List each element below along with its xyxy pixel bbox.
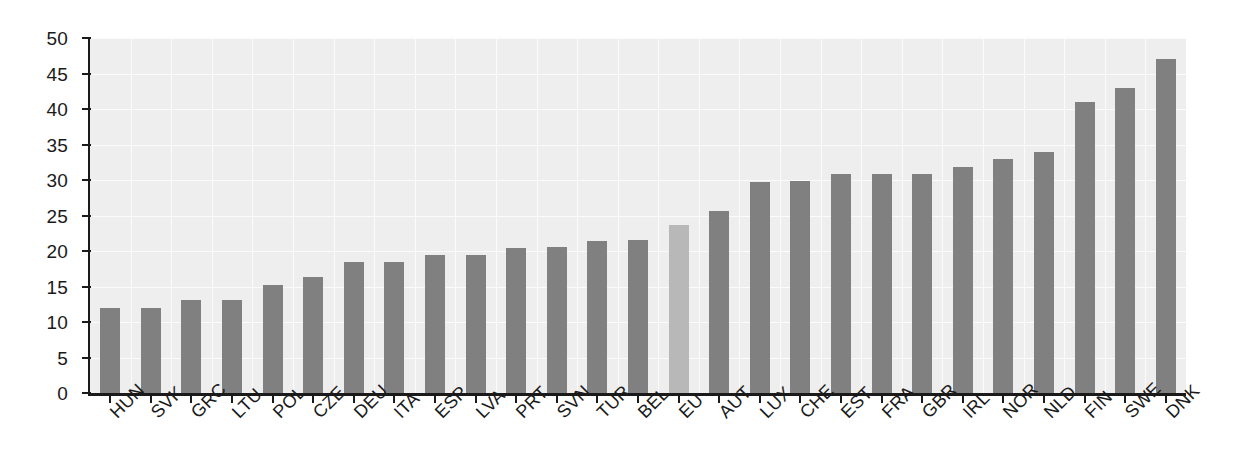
x-axis-label-prt: PRT bbox=[512, 382, 553, 423]
x-tick-mark bbox=[272, 396, 274, 403]
x-tick-mark bbox=[231, 396, 233, 403]
x-axis-label-esp: ESP bbox=[431, 382, 472, 423]
x-axis-label-nor: NOR bbox=[999, 379, 1043, 423]
y-tick-mark bbox=[82, 37, 91, 39]
x-tick-mark bbox=[109, 396, 111, 403]
y-tick-mark bbox=[82, 108, 91, 110]
x-tick-mark bbox=[353, 396, 355, 403]
x-tick-mark bbox=[556, 396, 558, 403]
x-tick-mark bbox=[475, 396, 477, 403]
x-tick-mark bbox=[678, 396, 680, 403]
x-axis-label-dnk: DNK bbox=[1162, 380, 1204, 422]
x-axis-label-irl: IRL bbox=[959, 388, 994, 423]
bar-chart: 05101520253035404550 HUNSVKGRCLTUPOLCZED… bbox=[0, 0, 1238, 466]
x-tick-mark bbox=[881, 396, 883, 403]
x-tick-mark bbox=[1084, 396, 1086, 403]
x-tick-mark bbox=[515, 396, 517, 403]
x-axis-label-deu: DEU bbox=[350, 380, 392, 422]
y-tick-mark bbox=[82, 144, 91, 146]
x-axis-label-swe: SWE bbox=[1121, 378, 1165, 422]
x-axis-label-fin: FIN bbox=[1081, 387, 1117, 423]
x-axis-label-svk: SVK bbox=[147, 382, 188, 423]
x-tick-mark bbox=[799, 396, 801, 403]
x-tick-mark bbox=[312, 396, 314, 403]
x-axis-label-gbr: GBR bbox=[918, 380, 961, 423]
x-axis-label-aut: AUT bbox=[715, 382, 756, 423]
x-axis-label-nld: NLD bbox=[1040, 382, 1081, 423]
y-tick-mark bbox=[82, 286, 91, 288]
y-tick-mark bbox=[82, 179, 91, 181]
x-tick-mark bbox=[393, 396, 395, 403]
x-axis-labels: HUNSVKGRCLTUPOLCZEDEUITAESPLVAPRTSVNTURB… bbox=[0, 0, 1238, 466]
x-tick-mark bbox=[1124, 396, 1126, 403]
x-tick-mark bbox=[718, 396, 720, 403]
x-tick-mark bbox=[637, 396, 639, 403]
x-axis-label-grc: GRC bbox=[187, 379, 231, 423]
x-tick-mark bbox=[962, 396, 964, 403]
x-axis-label-cze: CZE bbox=[309, 382, 350, 423]
x-axis-label-che: CHE bbox=[796, 380, 838, 422]
y-tick-mark bbox=[82, 357, 91, 359]
x-tick-mark bbox=[1165, 396, 1167, 403]
x-axis-label-lux: LUX bbox=[756, 383, 796, 423]
x-axis-label-tur: TUR bbox=[593, 381, 635, 423]
x-tick-mark bbox=[921, 396, 923, 403]
y-tick-mark bbox=[82, 321, 91, 323]
y-tick-mark bbox=[82, 392, 91, 394]
x-axis-label-eu: EU bbox=[675, 390, 708, 423]
x-axis-label-ita: ITA bbox=[390, 388, 424, 422]
x-axis-label-fra: FRA bbox=[878, 382, 919, 423]
y-tick-mark bbox=[82, 250, 91, 252]
x-tick-mark bbox=[840, 396, 842, 403]
x-tick-mark bbox=[150, 396, 152, 403]
x-axis-label-pol: POL bbox=[269, 382, 310, 423]
x-axis-label-ltu: LTU bbox=[228, 384, 267, 423]
x-axis-label-hun: HUN bbox=[106, 380, 149, 423]
x-axis-label-lva: LVA bbox=[472, 385, 510, 423]
x-tick-mark bbox=[1002, 396, 1004, 403]
x-axis-label-est: EST bbox=[837, 383, 877, 423]
x-tick-mark bbox=[434, 396, 436, 403]
x-tick-mark bbox=[759, 396, 761, 403]
x-tick-mark bbox=[1043, 396, 1045, 403]
y-tick-mark bbox=[82, 73, 91, 75]
x-axis-label-svn: SVN bbox=[553, 381, 595, 423]
x-axis-label-bel: BEL bbox=[634, 383, 674, 423]
x-tick-mark bbox=[596, 396, 598, 403]
y-tick-mark bbox=[82, 215, 91, 217]
x-tick-mark bbox=[190, 396, 192, 403]
